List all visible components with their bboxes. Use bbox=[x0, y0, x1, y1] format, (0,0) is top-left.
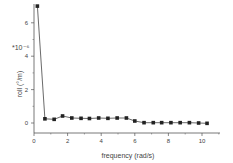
data-point-marker bbox=[160, 121, 164, 125]
data-point-marker bbox=[61, 114, 65, 118]
y-axis-label: roll (°/m) bbox=[16, 71, 24, 98]
data-point-marker bbox=[106, 117, 110, 121]
data-point-marker bbox=[36, 4, 40, 8]
data-point-marker bbox=[133, 119, 137, 123]
data-point-marker bbox=[115, 116, 119, 120]
x-tick-label: 4 bbox=[100, 138, 104, 144]
data-point-marker bbox=[52, 118, 56, 122]
data-point-marker bbox=[97, 116, 101, 120]
y-multiplier-label: *10⁻⁶ bbox=[12, 44, 30, 51]
y-tick-label: 6 bbox=[25, 20, 29, 26]
series-line bbox=[37, 6, 207, 123]
data-point-marker bbox=[125, 116, 129, 120]
x-axis-label: frequency (rad/s) bbox=[102, 152, 155, 160]
x-tick-label: 6 bbox=[133, 138, 137, 144]
y-tick-label: 4 bbox=[25, 53, 29, 59]
x-tick-label: 8 bbox=[167, 138, 171, 144]
data-point-marker bbox=[79, 117, 83, 121]
data-point-marker bbox=[70, 116, 74, 120]
x-tick-label: 2 bbox=[66, 138, 70, 144]
data-point-marker bbox=[43, 117, 47, 121]
data-point-marker bbox=[88, 117, 92, 121]
data-point-marker bbox=[197, 121, 201, 125]
data-point-marker bbox=[142, 121, 146, 125]
data-point-marker bbox=[188, 121, 192, 125]
x-tick-label: 10 bbox=[199, 138, 206, 144]
data-series bbox=[36, 4, 209, 125]
data-point-marker bbox=[151, 121, 155, 125]
data-point-marker bbox=[205, 122, 209, 126]
y-tick-label: 2 bbox=[25, 87, 29, 93]
x-tick-label: 0 bbox=[32, 138, 36, 144]
y-tick-label: 0 bbox=[25, 120, 29, 126]
data-point-marker bbox=[169, 121, 173, 125]
line-chart: 02460246810 *10⁻⁶ frequency (rad/s) roll… bbox=[0, 0, 233, 163]
data-point-marker bbox=[178, 121, 182, 125]
